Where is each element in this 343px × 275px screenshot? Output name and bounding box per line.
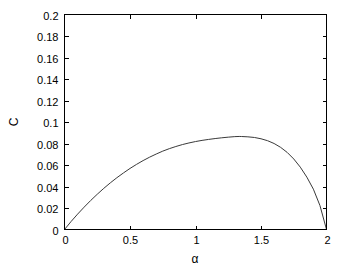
figure-container: 00.511.52 00.020.040.060.080.10.120.140.… <box>0 0 343 275</box>
y-tick-label: 0.1 <box>43 117 58 129</box>
y-tick-label: 0.18 <box>37 31 58 43</box>
x-axis-label: α <box>192 252 199 266</box>
x-tick-label: 0 <box>62 234 68 246</box>
x-tick-label: 1.5 <box>254 234 269 246</box>
y-tick-label: 0.12 <box>37 96 58 108</box>
x-tick-label: 2 <box>324 234 330 246</box>
y-tick-label: 0.06 <box>37 160 58 172</box>
y-tick-label: 0.16 <box>37 53 58 65</box>
x-tick-label: 1 <box>193 234 199 246</box>
y-axis-label: C <box>7 117 21 126</box>
y-tick-label: 0 <box>52 225 58 237</box>
y-tick-label: 0.14 <box>37 74 58 86</box>
y-tick-label: 0.2 <box>43 10 58 22</box>
y-tick-label: 0.08 <box>37 139 58 151</box>
y-tick-label: 0.02 <box>37 203 58 215</box>
y-tick-label: 0.04 <box>37 182 58 194</box>
chart-canvas: 00.511.52 00.020.040.060.080.10.120.140.… <box>0 0 343 275</box>
x-tick-label: 0.5 <box>123 234 138 246</box>
axes-background <box>64 14 327 230</box>
